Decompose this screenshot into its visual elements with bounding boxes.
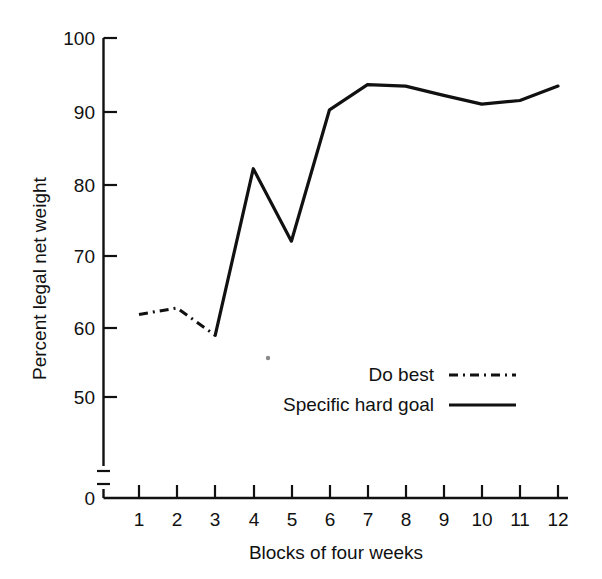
y-tick-label-60: 60: [74, 318, 95, 339]
x-tick-label-2: 2: [172, 509, 183, 530]
legend-label-do-best: Do best: [369, 364, 435, 385]
series-line-specific-hard-goal: [215, 85, 558, 336]
y-tick-label-70: 70: [74, 246, 95, 267]
x-tick-label-6: 6: [325, 509, 336, 530]
x-tick-label-8: 8: [401, 509, 412, 530]
x-tick-label-10: 10: [471, 509, 492, 530]
x-tick-label-1: 1: [134, 509, 145, 530]
x-axis-title: Blocks of four weeks: [249, 542, 423, 563]
y-tick-label-50: 50: [74, 387, 95, 408]
plot-area: [139, 85, 558, 336]
chart-figure: 100 90 80 70 60 50 0 Percent legal net w…: [0, 0, 602, 579]
y-tick-label-80: 80: [74, 175, 95, 196]
legend: Do best Specific hard goal: [283, 364, 516, 415]
x-tick-label-3: 3: [210, 509, 221, 530]
x-tick-label-12: 12: [547, 509, 568, 530]
series-line-do-best: [139, 308, 215, 335]
y-tick-label-100: 100: [63, 28, 95, 49]
x-tick-label-5: 5: [287, 509, 298, 530]
x-tick-label-7: 7: [363, 509, 374, 530]
y-axis-title: Percent legal net weight: [29, 176, 50, 380]
scan-artifact-dot: [266, 356, 270, 360]
x-tick-label-9: 9: [439, 509, 450, 530]
x-axis: 1 2 3 4 5 6 7 8 9 10 11 12 Blocks of fou…: [104, 485, 569, 563]
x-tick-label-11: 11: [510, 509, 530, 530]
y-axis: 100 90 80 70 60 50 0 Percent legal net w…: [29, 28, 117, 509]
y-tick-label-0: 0: [84, 488, 95, 509]
line-chart-svg: 100 90 80 70 60 50 0 Percent legal net w…: [0, 0, 602, 579]
y-tick-label-90: 90: [74, 102, 95, 123]
x-tick-label-4: 4: [249, 509, 260, 530]
legend-label-specific-hard-goal: Specific hard goal: [283, 394, 434, 415]
